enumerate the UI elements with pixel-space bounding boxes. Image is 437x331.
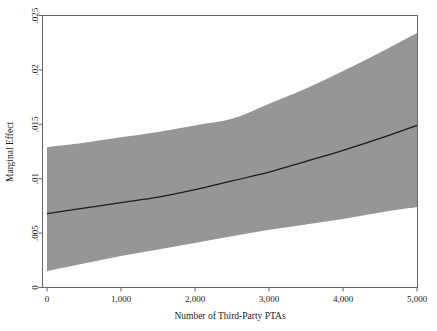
y-tick-label: .005 bbox=[30, 225, 40, 241]
x-tick-label: 2,000 bbox=[185, 294, 206, 304]
y-tick-label: .01 bbox=[30, 173, 40, 184]
y-tick-label: .02 bbox=[30, 64, 40, 75]
marginal-effect-chart: 0.005.01.015.02.025 01,0002,0003,0004,00… bbox=[0, 0, 437, 331]
x-axis-title: Number of Third-Party PTAs bbox=[174, 311, 286, 321]
y-tick-label: 0 bbox=[30, 285, 40, 290]
x-tick-label: 5,000 bbox=[407, 294, 428, 304]
x-tick-label: 1,000 bbox=[111, 294, 132, 304]
x-tick-label: 4,000 bbox=[333, 294, 354, 304]
x-tick-label: 0 bbox=[45, 294, 50, 304]
y-tick-label: .015 bbox=[30, 116, 40, 132]
x-tick-label: 3,000 bbox=[259, 294, 280, 304]
y-axis-title: Marginal Effect bbox=[5, 122, 15, 182]
y-tick-label: .025 bbox=[30, 7, 40, 23]
marginal-effect-figure: 0.005.01.015.02.025 01,0002,0003,0004,00… bbox=[0, 0, 437, 331]
